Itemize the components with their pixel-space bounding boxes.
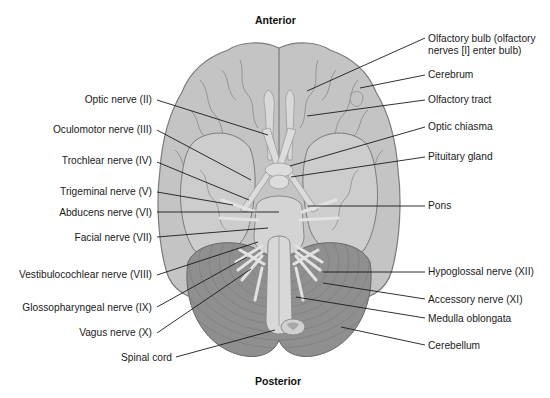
brain-inferior-view-diagram bbox=[0, 0, 550, 398]
label-abducens-nerve: Abducens nerve (VI) bbox=[59, 207, 152, 218]
label-olfactory-bulb-line2: nerves [I] enter bulb) bbox=[428, 45, 521, 56]
label-olfactory-bulb: Olfactory bulb (olfactory bbox=[428, 33, 536, 44]
label-trochlear-nerve: Trochlear nerve (IV) bbox=[62, 155, 152, 166]
label-accessory-nerve: Accessory nerve (XI) bbox=[428, 294, 523, 305]
label-trigeminal-nerve: Trigeminal nerve (V) bbox=[60, 186, 152, 197]
label-cerebellum: Cerebellum bbox=[428, 340, 480, 351]
label-optic-chiasma: Optic chiasma bbox=[428, 121, 493, 132]
anterior-label: Anterior bbox=[255, 14, 296, 26]
label-vestibulocochlear-nerve: Vestibulocochlear nerve (VIII) bbox=[19, 269, 152, 280]
label-pons: Pons bbox=[428, 200, 451, 211]
label-pituitary-gland: Pituitary gland bbox=[428, 151, 493, 162]
label-olfactory-tract: Olfactory tract bbox=[428, 94, 491, 105]
label-medulla-oblongata: Medulla oblongata bbox=[428, 313, 511, 324]
label-glossopharyngeal-nerve: Glossopharyngeal nerve (IX) bbox=[22, 302, 152, 313]
posterior-label: Posterior bbox=[255, 375, 301, 387]
label-facial-nerve: Facial nerve (VII) bbox=[74, 232, 152, 243]
label-oculomotor-nerve: Oculomotor nerve (III) bbox=[53, 124, 152, 135]
label-vagus-nerve: Vagus nerve (X) bbox=[79, 327, 152, 338]
label-hypoglossal-nerve: Hypoglossal nerve (XII) bbox=[428, 266, 534, 277]
label-spinal-cord: Spinal cord bbox=[121, 352, 172, 363]
label-cerebrum: Cerebrum bbox=[428, 69, 473, 80]
label-optic-nerve: Optic nerve (II) bbox=[85, 94, 152, 105]
